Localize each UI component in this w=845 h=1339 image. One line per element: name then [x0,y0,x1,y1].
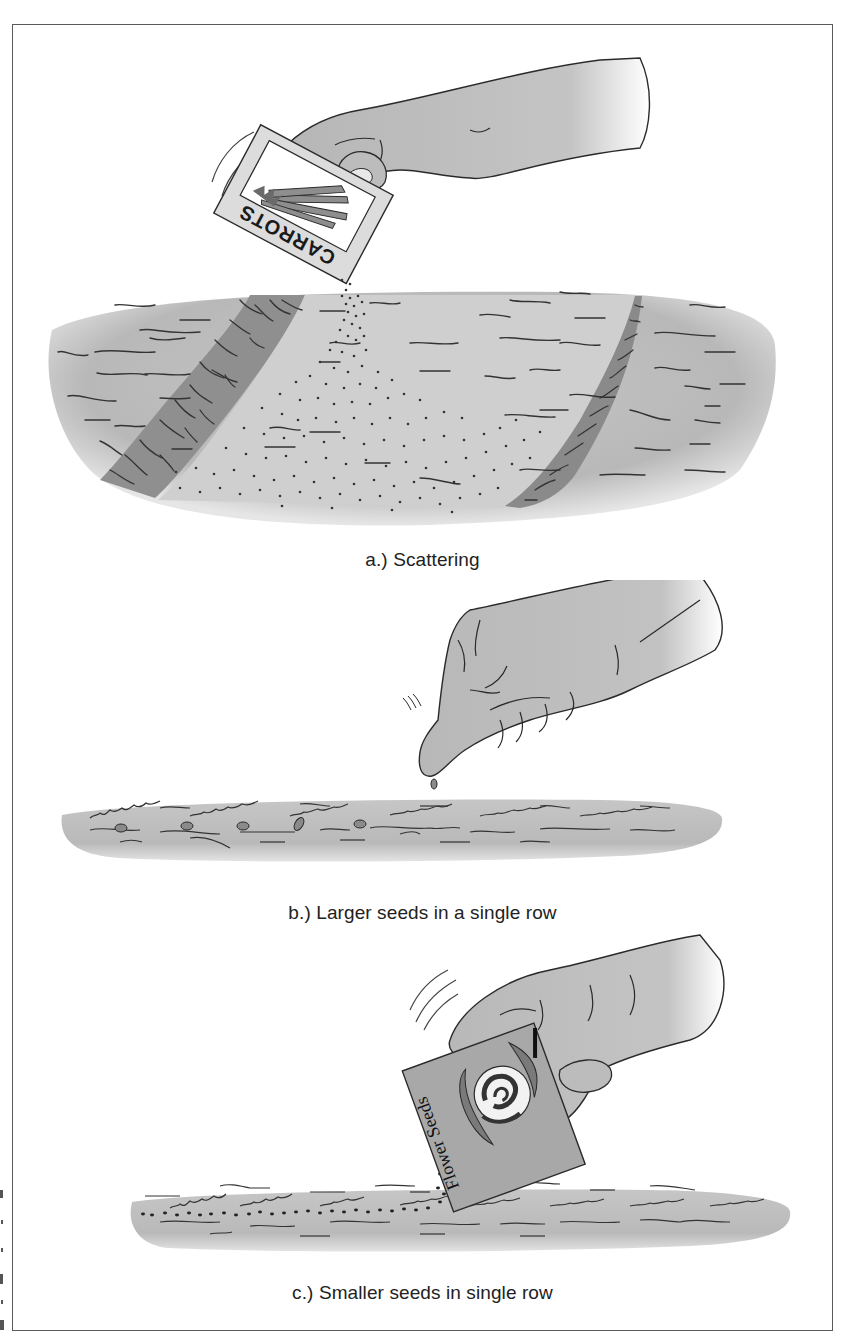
caption-scattering: a.) Scattering [0,549,845,571]
panel-scattering: CARROTS a.) Scattering [0,0,845,580]
panel-larger-seeds: b.) Larger seeds in a single row [0,580,845,930]
smaller-seeds-illustration: Flower Seeds [0,930,845,1330]
thumb [559,1060,611,1092]
larger-seeds-illustration [0,580,845,930]
motion-lines [410,970,458,1030]
hand-pinching [403,580,722,776]
caption-larger-seeds: b.) Larger seeds in a single row [0,902,845,924]
scattering-illustration: CARROTS [0,0,845,580]
caption-smaller-seeds: c.) Smaller seeds in single row [0,1282,845,1304]
soil-bed [48,292,775,526]
soil-row [62,800,723,862]
panel-smaller-seeds: Flower Seeds c.) Smaller seeds in single… [0,930,845,1330]
